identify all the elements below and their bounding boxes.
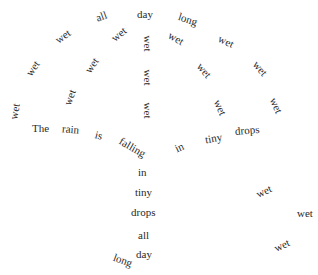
- poem-word-wet: wet: [216, 33, 235, 50]
- poem-word: all: [138, 230, 149, 241]
- poem-word-wet: wet: [272, 237, 291, 254]
- poem-word: day: [136, 249, 152, 260]
- poem-word: tiny: [135, 187, 152, 198]
- poem-word: falling: [117, 136, 147, 160]
- poem-word-wet: wet: [251, 59, 270, 78]
- poem-word: drops: [131, 207, 155, 218]
- poem-word-wet: wet: [83, 56, 101, 75]
- poem-word: in: [173, 141, 185, 155]
- poem-word-wet: wet: [142, 36, 153, 52]
- poem-word: long: [177, 11, 199, 28]
- poem-word: tiny: [204, 132, 223, 146]
- poem-word-wet: wet: [8, 103, 22, 121]
- poem-word: The: [32, 123, 49, 134]
- poem-word-wet: wet: [142, 103, 153, 119]
- poem-word: day: [137, 9, 153, 20]
- poem-word-wet: wet: [142, 70, 153, 86]
- poem-word: rain: [62, 123, 80, 135]
- poem-word: long: [112, 252, 134, 269]
- poem-word-wet: wet: [53, 27, 72, 45]
- poem-word: is: [94, 129, 104, 142]
- poem-word: in: [138, 167, 147, 178]
- poem-word: drops: [235, 124, 260, 137]
- poem-word-wet: wet: [297, 208, 313, 219]
- poem-word-wet: wet: [268, 96, 285, 115]
- poem-word-wet: wet: [62, 88, 78, 107]
- poem-word: all: [94, 9, 108, 23]
- poem-word-wet: wet: [166, 30, 185, 47]
- poem-word-wet: wet: [212, 98, 229, 117]
- poem-word-wet: wet: [109, 25, 128, 44]
- concrete-poem: alldaylongwetwetwetwetwetwetwetwetwetwet…: [0, 0, 318, 275]
- poem-word-wet: wet: [24, 59, 42, 78]
- poem-word-wet: wet: [254, 183, 273, 200]
- poem-word-wet: wet: [195, 61, 214, 80]
